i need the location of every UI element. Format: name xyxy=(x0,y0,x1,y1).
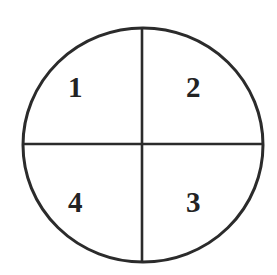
quadrant-label-2: 2 xyxy=(186,73,201,102)
quadrant-circle-diagram xyxy=(0,0,277,275)
quadrant-circle-figure: 1 2 3 4 xyxy=(0,0,277,275)
quadrant-label-1: 1 xyxy=(68,73,83,102)
quadrant-label-4: 4 xyxy=(68,188,83,217)
quadrant-label-3: 3 xyxy=(186,188,201,217)
